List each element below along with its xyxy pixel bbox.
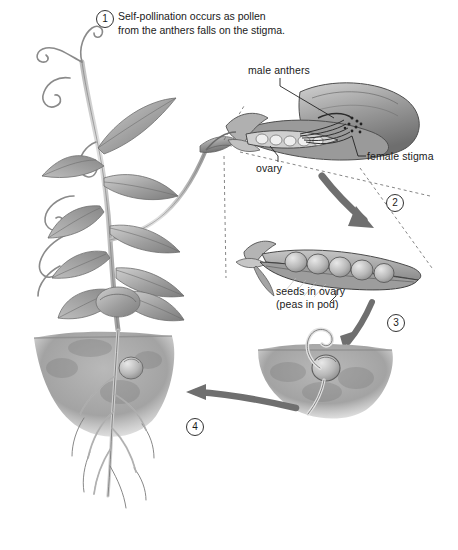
label-seeds-in-ovary: seeds in ovary (peas in pod) [276,285,345,310]
label-seeds-line-1: seeds in ovary [276,285,345,297]
step-number-2: 2 [386,194,404,212]
illustration-svg [0,0,458,550]
step-number-1: 1 [96,10,114,28]
step-1-caption-line-1: Self-pollination occurs as pollen [118,10,266,22]
step-1-caption: Self-pollination occurs as pollen from t… [118,10,285,37]
label-ovary: ovary [256,162,282,175]
arrow-step-2 [322,176,374,228]
label-seeds-line-2: (peas in pod) [276,298,339,310]
step-number-4: 4 [186,418,204,436]
label-male-anthers: male anthers [248,64,310,77]
step-1-caption-line-2: from the anthers falls on the stigma. [118,24,285,36]
soil-and-roots-illustration [34,330,174,508]
label-female-stigma: female stigma [367,150,434,163]
step-number-3: 3 [387,314,405,332]
mature-plant-illustration [37,26,236,330]
diagram-canvas: 1 Self-pollination occurs as pollen from… [0,0,458,550]
